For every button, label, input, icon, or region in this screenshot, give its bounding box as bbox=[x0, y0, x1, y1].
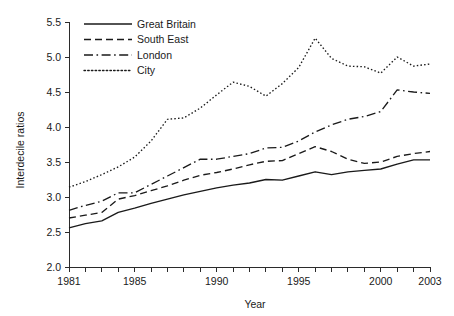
x-tick-label: 1981 bbox=[57, 275, 81, 287]
y-tick-label: 2.5 bbox=[46, 226, 61, 238]
series-line-london bbox=[69, 90, 430, 210]
x-tick-label: 1995 bbox=[287, 275, 311, 287]
chart-container: 2.02.53.03.54.04.55.05.5 198119851990199… bbox=[0, 0, 454, 316]
series-lines bbox=[69, 38, 430, 228]
y-tick-label: 2.0 bbox=[46, 261, 61, 273]
y-tick-label: 5.5 bbox=[46, 16, 61, 28]
legend-label-south-east: South East bbox=[137, 33, 188, 45]
line-chart: 2.02.53.03.54.04.55.05.5 198119851990199… bbox=[0, 0, 454, 316]
y-axis-title: Interdecile ratios bbox=[14, 111, 26, 188]
y-axis: 2.02.53.03.54.04.55.05.5 bbox=[46, 16, 69, 273]
series-line-south-east bbox=[69, 147, 430, 218]
x-tick-label: 1990 bbox=[205, 275, 229, 287]
y-tick-label: 4.5 bbox=[46, 86, 61, 98]
series-line-great-britain bbox=[69, 160, 430, 228]
x-tick-label: 2000 bbox=[369, 275, 393, 287]
x-axis: 198119851990199520002003 bbox=[57, 267, 442, 287]
chart-legend: Great BritainSouth EastLondonCity bbox=[84, 18, 196, 77]
x-tick-label: 1985 bbox=[123, 275, 147, 287]
x-tick-label: 2003 bbox=[418, 275, 442, 287]
legend-label-london: London bbox=[137, 49, 172, 61]
y-tick-label: 3.5 bbox=[46, 156, 61, 168]
y-tick-label: 5.0 bbox=[46, 51, 61, 63]
legend-label-great-britain: Great Britain bbox=[137, 18, 196, 30]
y-tick-label: 3.0 bbox=[46, 191, 61, 203]
y-tick-label: 4.0 bbox=[46, 121, 61, 133]
legend-label-city: City bbox=[137, 64, 156, 76]
x-axis-title: Year bbox=[244, 298, 266, 310]
